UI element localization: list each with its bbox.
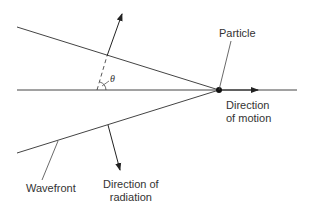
wavefront-label: Wavefront [26,182,76,195]
radiation-arrow-down [108,125,120,170]
angle-arc [100,82,106,90]
wavefront-leader [42,141,58,180]
particle-label: Particle [219,27,256,40]
radiation-arrow-up [107,14,122,56]
radiation-dashed [97,56,107,90]
direction-of-radiation-label: Direction of radiation [103,178,159,204]
direction-of-motion-label: Direction of motion [226,99,271,125]
direction-of-radiation-line2: radiation [103,191,159,204]
upper-wavefront [17,27,219,90]
angle-theta-label: θ [110,73,115,84]
direction-of-motion-line2: of motion [226,112,271,125]
particle-leader [219,41,231,90]
lower-wavefront [17,90,219,153]
direction-of-radiation-line1: Direction of [103,178,159,191]
direction-of-motion-line1: Direction [226,99,271,112]
